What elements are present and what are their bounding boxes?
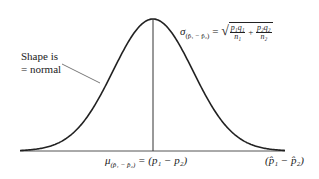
shape-leader-line (62, 64, 100, 83)
sqrt-symbol: √ (221, 23, 229, 38)
sqrt-body: p₁q₁n₁ + p₂q₂n₂ (229, 22, 273, 41)
sigma-subscript: (p̂₁ − p̂₂) (185, 32, 209, 40)
fraction-1: p₁q₁n₁ (230, 24, 246, 41)
sigma-equals: = (212, 25, 218, 37)
shape-label-line2: = normal (21, 63, 61, 75)
sigma-formula: σ(p̂₁ − p̂₂) = √ p₁q₁n₁ + p₂q₂n₂ (180, 22, 273, 42)
fraction-2: p₂q₂n₂ (256, 24, 272, 41)
shape-label-line1: Shape is (21, 50, 58, 62)
mean-label: μ(p̂₁ − p̂₂) = (p₁ − p₂) (105, 154, 187, 171)
mu-value: = (p₁ − p₂) (138, 154, 187, 166)
mu-subscript: (p̂₁ − p̂₂) (111, 161, 136, 169)
x-axis-label: (p̂₁ − p̂₂) (265, 154, 304, 166)
